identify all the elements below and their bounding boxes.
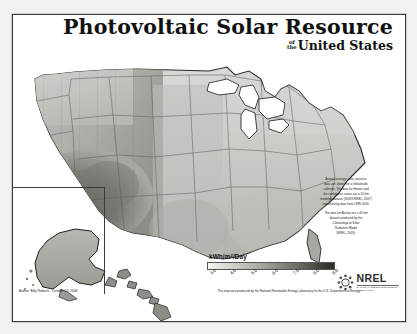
subtitle-text: United States bbox=[298, 38, 393, 53]
note-line: representing data from 1998-2005. bbox=[309, 202, 383, 207]
map-note-methodology: Annual average solar resource data are s… bbox=[309, 177, 383, 207]
nrel-wordmark-block: NREL NATIONAL RENEWABLE ENERGY LABORATOR… bbox=[357, 273, 400, 292]
author-line: Author: Billy Roberts - October 20, 2008 bbox=[19, 289, 77, 293]
nrel-sun-icon bbox=[337, 274, 354, 291]
legend: kWh/m2/Day 3.0 4.0 5.0 6.0 7.0 8.0 9.0 bbox=[205, 253, 335, 292]
of-the-stack: of the bbox=[287, 40, 297, 50]
page-subtitle: of the United States bbox=[13, 39, 393, 53]
nrel-logo: NREL NATIONAL RENEWABLE ENERGY LABORATOR… bbox=[337, 273, 399, 292]
map-poster: Photovoltaic Solar Resource of the Unite… bbox=[12, 14, 406, 322]
the-word: the bbox=[287, 45, 297, 50]
nrel-wordmark: NREL bbox=[357, 273, 400, 284]
page-title: Photovoltaic Solar Resource bbox=[13, 17, 393, 38]
legend-unit-tail: /Day bbox=[233, 253, 247, 260]
map-note-alaska: The data for Alaska are a 40 km dataset … bbox=[309, 211, 383, 236]
legend-unit: kWh/m bbox=[209, 253, 230, 260]
note-line: (NREL, 2003). bbox=[309, 231, 383, 236]
poster-title-block: Photovoltaic Solar Resource of the Unite… bbox=[13, 17, 405, 53]
legend-title: kWh/m2/Day bbox=[209, 253, 335, 260]
nrel-tagline: NATIONAL RENEWABLE ENERGY LABORATORY bbox=[357, 286, 400, 292]
